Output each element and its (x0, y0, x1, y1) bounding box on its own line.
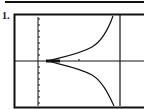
lower-branch-curve (48, 61, 114, 106)
graph-window (0, 0, 144, 109)
upper-branch-curve (48, 16, 113, 61)
